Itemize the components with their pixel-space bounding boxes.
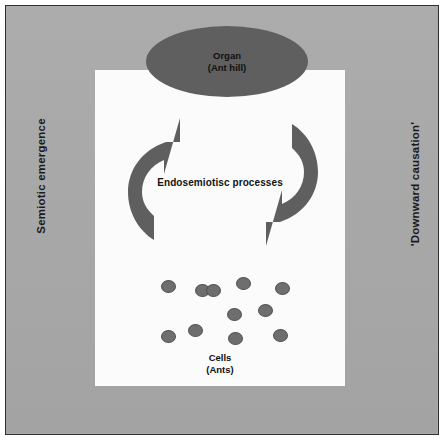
cell-dot	[206, 284, 221, 297]
downward-causation-label: 'Downward causation'	[409, 89, 421, 279]
cells-label-line2: (Ants)	[95, 364, 345, 376]
endosemiotic-processes-label: Endosemiotisc processes	[95, 177, 345, 188]
cell-dot	[275, 282, 290, 295]
cell-dot	[273, 329, 288, 342]
semiotic-emergence-label: Semiotic emergence	[35, 91, 47, 261]
cell-dot	[227, 308, 242, 321]
cell-dot	[161, 330, 176, 343]
cell-dot	[258, 304, 273, 317]
cell-dot	[228, 332, 243, 345]
cell-dot	[236, 277, 251, 290]
organ-label-line1: Organ	[213, 50, 241, 62]
cells-label-line1: Cells	[95, 352, 345, 364]
cell-dot	[188, 324, 203, 337]
cells-cluster	[155, 272, 311, 352]
emergence-diagram-figure: Organ (Ant hill) Endosemiotisc processes…	[0, 0, 444, 440]
organ-label-line2: (Ant hill)	[208, 62, 247, 74]
cell-dot	[161, 280, 176, 293]
cells-label: Cells (Ants)	[95, 352, 345, 376]
organ-ellipse: Organ (Ant hill)	[146, 26, 308, 97]
